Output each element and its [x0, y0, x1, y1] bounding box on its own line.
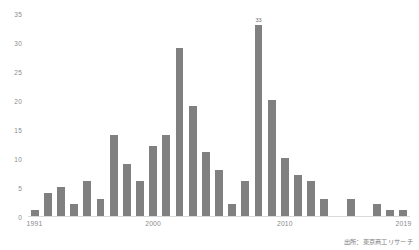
- bar-slot: [265, 14, 278, 216]
- bar: [162, 135, 170, 216]
- bar: [189, 106, 197, 216]
- plot-area: 33: [28, 14, 410, 217]
- bar: [110, 135, 118, 216]
- axis-baseline: [28, 216, 410, 217]
- bar-slot: [133, 14, 146, 216]
- bar: [268, 100, 276, 216]
- bar: [373, 204, 381, 216]
- bar: [97, 199, 105, 216]
- bar-slot: [41, 14, 54, 216]
- x-axis-tick: 1991: [27, 220, 43, 227]
- bar: [386, 210, 394, 216]
- bar: [31, 210, 39, 216]
- bar-slot: [147, 14, 160, 216]
- bar-slot: [107, 14, 120, 216]
- bar-slot: [94, 14, 107, 216]
- bar-slot: 33: [252, 14, 265, 216]
- bar-slot: [305, 14, 318, 216]
- y-axis-tick: 15: [14, 127, 22, 134]
- bar-slot: [173, 14, 186, 216]
- bar: [136, 181, 144, 216]
- bar-slot: [28, 14, 41, 216]
- bar: [320, 199, 328, 216]
- x-axis: 1991200020102019: [28, 220, 410, 234]
- bar: [241, 181, 249, 216]
- bar-chart: 05101520253035 33 1991200020102019 出所：東京…: [0, 0, 419, 250]
- bar-slot: [54, 14, 67, 216]
- bar-value-label: 33: [255, 18, 261, 24]
- bar-slot: [357, 14, 370, 216]
- bar-slot: [199, 14, 212, 216]
- bar-slot: [318, 14, 331, 216]
- bar: [83, 181, 91, 216]
- x-axis-tick: 2010: [277, 220, 293, 227]
- bar: [347, 199, 355, 216]
- bar: [57, 187, 65, 216]
- bar-slot: [397, 14, 410, 216]
- y-axis-tick: 20: [14, 98, 22, 105]
- y-axis-tick: 0: [18, 214, 22, 221]
- bar: [399, 210, 407, 216]
- bar-slot: [331, 14, 344, 216]
- y-axis-tick: 10: [14, 156, 22, 163]
- bar-slot: [120, 14, 133, 216]
- bar-slot: [291, 14, 304, 216]
- y-axis-tick: 25: [14, 69, 22, 76]
- bar-slot: [186, 14, 199, 216]
- bar: [228, 204, 236, 216]
- bar: [149, 146, 157, 216]
- bar: [123, 164, 131, 216]
- x-axis-tick: 2019: [395, 220, 411, 227]
- bar: [70, 204, 78, 216]
- bar-series: 33: [28, 14, 410, 216]
- bar-slot: [370, 14, 383, 216]
- y-axis-tick: 5: [18, 185, 22, 192]
- bar-slot: [212, 14, 225, 216]
- bar-slot: [384, 14, 397, 216]
- bar: [202, 152, 210, 216]
- bar-slot: [81, 14, 94, 216]
- bar-slot: [239, 14, 252, 216]
- bar: [307, 181, 315, 216]
- y-axis: 05101520253035: [0, 14, 26, 217]
- bar: [176, 48, 184, 216]
- bar-slot: [344, 14, 357, 216]
- bar: [281, 158, 289, 216]
- bar: [294, 175, 302, 216]
- bar-slot: [278, 14, 291, 216]
- x-axis-tick: 2000: [145, 220, 161, 227]
- source-note: 出所：東京商工リサーチ: [344, 237, 413, 246]
- bar-slot: [160, 14, 173, 216]
- bar-slot: [68, 14, 81, 216]
- bar-slot: [226, 14, 239, 216]
- bar: [255, 25, 263, 216]
- bar: [44, 193, 52, 216]
- bar: [215, 170, 223, 216]
- y-axis-tick: 35: [14, 11, 22, 18]
- y-axis-tick: 30: [14, 40, 22, 47]
